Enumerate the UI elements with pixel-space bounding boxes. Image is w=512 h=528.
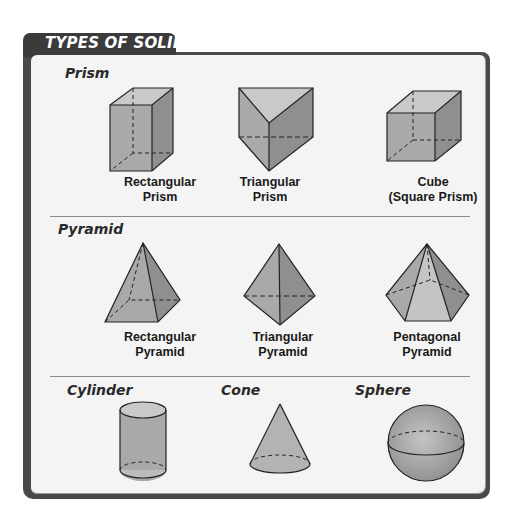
cylinder-icon xyxy=(115,400,175,485)
section-divider-2 xyxy=(50,376,470,377)
caption-pentagonal-pyramid: Pentagonal Pyramid xyxy=(367,330,487,360)
rectangular-pyramid-icon xyxy=(100,240,200,330)
caption-rectangular-prism: Rectangular Prism xyxy=(100,175,220,205)
caption-rectangular-pyramid: Rectangular Pyramid xyxy=(100,330,220,360)
cube-icon xyxy=(375,85,495,180)
section-title-sphere: Sphere xyxy=(355,382,411,398)
sphere-icon xyxy=(385,402,467,484)
section-title-prism: Prism xyxy=(65,65,109,81)
section-divider-1 xyxy=(50,216,470,217)
triangular-pyramid-icon xyxy=(240,240,330,330)
section-title-cylinder: Cylinder xyxy=(67,382,132,398)
section-title-pyramid: Pyramid xyxy=(58,221,123,237)
triangular-prism-icon xyxy=(225,85,345,180)
rectangular-prism-icon xyxy=(100,85,230,180)
section-title-cone: Cone xyxy=(221,382,260,398)
header-title: TYPES OF SOLIDS xyxy=(45,34,197,52)
caption-triangular-pyramid: Triangular Pyramid xyxy=(223,330,343,360)
caption-cube: Cube (Square Prism) xyxy=(373,175,493,205)
caption-triangular-prism: Triangular Prism xyxy=(210,175,330,205)
pentagonal-pyramid-icon xyxy=(380,240,490,330)
cone-icon xyxy=(245,402,315,484)
